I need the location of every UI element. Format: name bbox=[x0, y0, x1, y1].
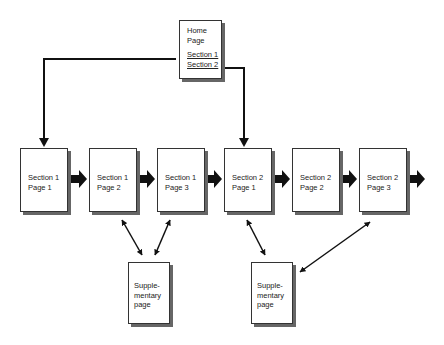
next-arrow-icon bbox=[340, 170, 357, 188]
page-label: Page 2 bbox=[300, 183, 331, 193]
section2-link[interactable]: Section 2 bbox=[187, 60, 218, 70]
page-label: page bbox=[134, 300, 161, 310]
page-label: Page 3 bbox=[367, 183, 398, 193]
page-label: Page 2 bbox=[97, 183, 128, 193]
page-label: Section 1 bbox=[97, 173, 128, 183]
page-label: Supple- bbox=[134, 281, 161, 291]
supplementary-page-box-1[interactable]: Supple- mentary page bbox=[128, 262, 170, 324]
section2-page1-box[interactable]: Section 2 Page 1 bbox=[224, 148, 272, 212]
section2-page2-box[interactable]: Section 2 Page 2 bbox=[292, 148, 340, 212]
next-arrow-icon bbox=[138, 170, 155, 188]
home-title-line: Home bbox=[187, 26, 218, 36]
page-label: Section 1 bbox=[28, 173, 59, 183]
page-label: Supple- bbox=[257, 281, 284, 291]
page-label: mentary bbox=[134, 291, 161, 301]
next-arrow-icon bbox=[205, 170, 222, 188]
next-arrow-icon bbox=[70, 170, 87, 188]
home-page-box[interactable]: Home Page Section 1 Section 2 bbox=[179, 20, 222, 79]
section2-page3-box[interactable]: Section 2 Page 3 bbox=[359, 148, 407, 212]
page-label: Section 2 bbox=[232, 173, 263, 183]
next-arrow-icon bbox=[273, 170, 290, 188]
next-arrow-icon bbox=[408, 170, 425, 188]
home-title-line: Page bbox=[187, 36, 218, 46]
page-label: Section 2 bbox=[367, 173, 398, 183]
page-label: Page 1 bbox=[232, 183, 263, 193]
page-label: Section 1 bbox=[165, 173, 196, 183]
home-to-section2-connector bbox=[224, 68, 249, 147]
section1-link[interactable]: Section 1 bbox=[187, 50, 218, 60]
home-to-section1-connector bbox=[39, 59, 176, 147]
section1-page2-box[interactable]: Section 1 Page 2 bbox=[89, 148, 137, 212]
page-label: page bbox=[257, 300, 284, 310]
page-label: Page 1 bbox=[28, 183, 59, 193]
supplementary-page-box-2[interactable]: Supple- mentary page bbox=[251, 262, 293, 324]
page-label: mentary bbox=[257, 291, 284, 301]
page-label: Section 2 bbox=[300, 173, 331, 183]
section1-page3-box[interactable]: Section 1 Page 3 bbox=[157, 148, 205, 212]
section1-page1-box[interactable]: Section 1 Page 1 bbox=[20, 148, 68, 212]
page-label: Page 3 bbox=[165, 183, 196, 193]
